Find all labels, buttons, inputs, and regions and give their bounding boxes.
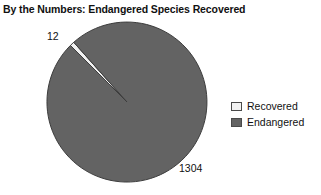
pie-slice-group (47, 22, 207, 182)
legend-swatch-recovered (231, 102, 242, 111)
legend-label-endangered: Endangered (247, 117, 304, 128)
legend-swatch-endangered (231, 118, 242, 127)
data-label-endangered: 1304 (179, 162, 202, 174)
legend-label-recovered: Recovered (247, 101, 298, 112)
legend-item-endangered[interactable]: Endangered (231, 116, 304, 128)
chart-legend: Recovered Endangered (231, 100, 304, 128)
legend-item-recovered[interactable]: Recovered (231, 100, 304, 112)
pie-slice-endangered[interactable] (47, 22, 207, 182)
pie-chart-figure: By the Numbers: Endangered Species Recov… (0, 0, 321, 195)
data-label-recovered: 12 (47, 30, 59, 42)
